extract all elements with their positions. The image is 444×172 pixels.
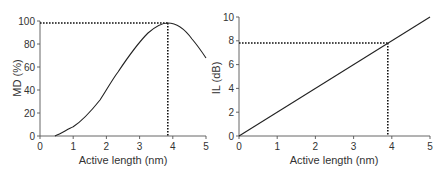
x-tick-label: 2 (104, 141, 110, 152)
x-tick-label: 1 (70, 141, 76, 152)
y-tick-label: 40 (24, 85, 36, 96)
md-curve (55, 23, 206, 136)
y-axis-label: MD (%) (11, 59, 23, 96)
y-tick-label: 4 (228, 83, 234, 94)
y-tick-label: 20 (24, 108, 36, 119)
y-tick-label: 0 (228, 131, 234, 142)
y-tick-label: 0 (29, 131, 35, 142)
x-tick-label: 2 (313, 141, 319, 152)
x-tick-label: 0 (236, 141, 242, 152)
x-tick-label: 4 (170, 141, 176, 152)
figure: 0 1 2 3 4 5 0 20 40 60 80 100 Active len… (0, 0, 444, 172)
y-tick-label: 80 (24, 39, 36, 50)
x-axis-label: Active length (nm) (290, 154, 379, 166)
y-tick-label: 60 (24, 62, 36, 73)
x-tick-label: 0 (37, 141, 43, 152)
chart-il: 0 1 2 3 4 5 0 2 4 6 8 10 Active length (… (210, 12, 433, 167)
x-tick-label: 5 (427, 141, 433, 152)
x-tick-label: 3 (351, 141, 357, 152)
y-tick-label: 2 (228, 107, 234, 118)
x-axis-label: Active length (nm) (79, 154, 168, 166)
y-tick-label: 10 (223, 12, 235, 23)
y-tick-label: 100 (18, 16, 35, 27)
y-tick-label: 8 (228, 35, 234, 46)
x-tick-label: 4 (389, 141, 395, 152)
x-tick-label: 5 (203, 141, 209, 152)
x-tick-label: 3 (137, 141, 143, 152)
il-line (239, 17, 430, 136)
x-tick-label: 1 (274, 141, 280, 152)
y-tick-label: 6 (228, 59, 234, 70)
y-axis-label: IL (dB) (210, 62, 222, 95)
chart-md: 0 1 2 3 4 5 0 20 40 60 80 100 Active len… (11, 16, 209, 167)
